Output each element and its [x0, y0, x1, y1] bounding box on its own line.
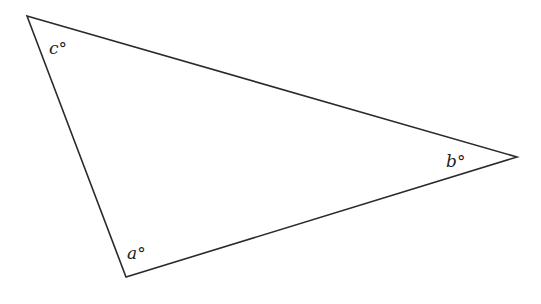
angle-label-c: c° [49, 38, 67, 58]
angle-label-b: b° [446, 151, 465, 171]
triangle [27, 16, 517, 277]
triangle-diagram: c° b° a° [0, 0, 541, 304]
angle-label-a: a° [127, 243, 146, 263]
